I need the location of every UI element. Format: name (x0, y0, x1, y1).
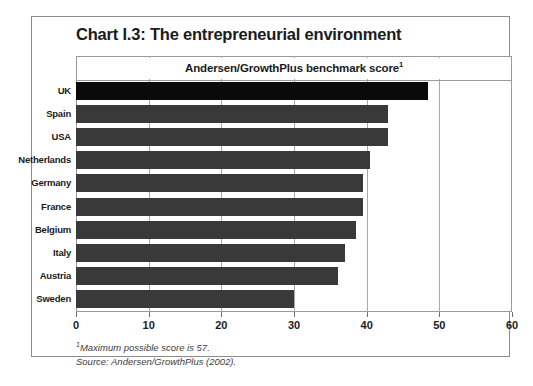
footnote-max-score: 1Maximum possible score is 57. (76, 338, 236, 355)
tick-mark-60 (512, 312, 513, 317)
tick-mark-10 (149, 312, 150, 317)
bar-fill (76, 174, 363, 192)
category-label-france: France (0, 201, 71, 212)
bar-fill (76, 290, 294, 308)
bar-uk (76, 82, 428, 100)
bar-fill (76, 221, 356, 239)
category-label-belgium: Belgium (0, 224, 71, 235)
bar-france (76, 198, 363, 216)
tick-label-50: 50 (433, 319, 445, 331)
category-label-spain: Spain (0, 108, 71, 119)
footnote-text: Maximum possible score is 57. (80, 342, 210, 353)
bar-austria (76, 267, 338, 285)
tick-mark-30 (294, 312, 295, 317)
tick-label-30: 30 (288, 319, 300, 331)
bar-fill (76, 244, 345, 262)
tick-label-40: 40 (361, 319, 373, 331)
bar-netherlands (76, 151, 370, 169)
category-label-austria: Austria (0, 270, 71, 281)
subtitle-superscript: 1 (399, 60, 403, 69)
tick-mark-20 (221, 312, 222, 317)
bar-fill (76, 198, 363, 216)
tick-label-60: 60 (506, 319, 518, 331)
category-label-germany: Germany (0, 177, 71, 188)
bar-spain (76, 105, 388, 123)
category-label-uk: UK (0, 85, 71, 96)
bar-fill (76, 105, 388, 123)
tick-label-20: 20 (215, 319, 227, 331)
page-title: Chart I.3: The entrepreneurial environme… (76, 25, 401, 44)
chart-subtitle: Andersen/GrowthPlus benchmark score1 (76, 60, 512, 74)
bar-germany (76, 174, 363, 192)
category-label-netherlands: Netherlands (0, 154, 71, 165)
bar-fill (76, 267, 338, 285)
tick-label-10: 10 (143, 319, 155, 331)
tick-mark-50 (439, 312, 440, 317)
chart-page: Chart I.3: The entrepreneurial environme… (0, 0, 533, 386)
category-label-usa: USA (0, 131, 71, 142)
bar-series (76, 81, 512, 312)
bar-usa (76, 128, 388, 146)
bar-fill (76, 128, 388, 146)
tick-mark-40 (367, 312, 368, 317)
bar-belgium (76, 221, 356, 239)
category-label-sweden: Sweden (0, 293, 71, 304)
bar-fill (76, 151, 370, 169)
bar-sweden (76, 290, 294, 308)
tick-mark-0 (76, 312, 77, 317)
subtitle-text: Andersen/GrowthPlus benchmark score (185, 62, 399, 74)
category-axis-labels: UKSpainUSANetherlandsGermanyFranceBelgiu… (0, 81, 71, 312)
bar-italy (76, 244, 345, 262)
category-label-italy: Italy (0, 247, 71, 258)
source-line: Source: Andersen/GrowthPlus (2002). (76, 355, 236, 369)
footnotes: 1Maximum possible score is 57. Source: A… (76, 338, 236, 368)
tick-label-0: 0 (73, 319, 79, 331)
bar-fill (76, 82, 428, 100)
